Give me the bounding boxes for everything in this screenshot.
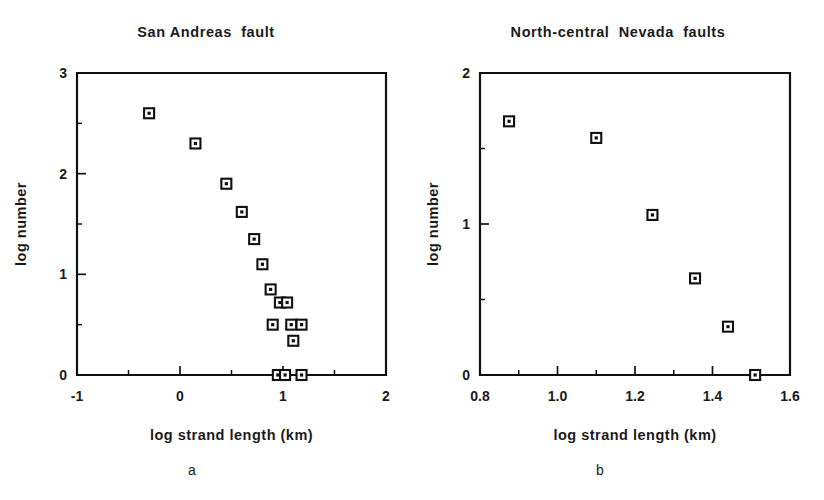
data-point-marker bbox=[286, 320, 296, 330]
x-axis-title: log strand length (km) bbox=[150, 427, 313, 443]
y-tick-label: 2 bbox=[462, 65, 470, 81]
data-point-marker bbox=[144, 108, 154, 118]
panel-a-san-andreas: San Andreas fault -10120123log strand le… bbox=[0, 0, 412, 500]
scatter-plot-nevada: 0.81.01.21.41.6012log strand length (km)… bbox=[412, 0, 824, 500]
data-point-marker bbox=[288, 336, 298, 346]
panel-letter-a: a bbox=[0, 462, 398, 478]
y-tick-label: 0 bbox=[59, 367, 67, 383]
y-tick-label: 0 bbox=[462, 367, 470, 383]
data-point-marker bbox=[297, 320, 307, 330]
y-tick-label: 1 bbox=[462, 216, 470, 232]
plot-frame bbox=[77, 73, 386, 375]
data-point-marker bbox=[297, 370, 307, 380]
panel-letter-b: b bbox=[394, 462, 806, 478]
data-point-marker bbox=[690, 273, 700, 283]
y-tick-label: 2 bbox=[59, 166, 67, 182]
data-point-marker bbox=[282, 298, 292, 308]
y-tick-label: 3 bbox=[59, 65, 67, 81]
x-tick-label: 1.2 bbox=[625, 388, 645, 404]
x-tick-label: 0 bbox=[176, 388, 184, 404]
x-tick-label: 2 bbox=[382, 388, 390, 404]
data-point-marker bbox=[190, 138, 200, 148]
data-point-marker bbox=[268, 320, 278, 330]
data-point-marker bbox=[591, 133, 601, 143]
x-tick-label: 0.8 bbox=[470, 388, 490, 404]
x-tick-label: 1.0 bbox=[548, 388, 568, 404]
y-axis-title: log number bbox=[13, 182, 29, 266]
data-point-marker bbox=[647, 210, 657, 220]
data-point-marker bbox=[750, 370, 760, 380]
y-axis-title: log number bbox=[425, 182, 441, 266]
x-tick-label: 1.4 bbox=[703, 388, 723, 404]
figure-container: San Andreas fault -10120123log strand le… bbox=[0, 0, 824, 500]
data-point-marker bbox=[280, 370, 290, 380]
x-axis-title: log strand length (km) bbox=[553, 427, 716, 443]
data-point-marker bbox=[266, 284, 276, 294]
data-point-marker bbox=[237, 207, 247, 217]
x-tick-label: -1 bbox=[71, 388, 84, 404]
scatter-plot-san-andreas: -10120123log strand length (km)log numbe… bbox=[0, 0, 412, 500]
panel-b-nevada: North-central Nevada faults 0.81.01.21.4… bbox=[412, 0, 824, 500]
data-point-marker bbox=[257, 259, 267, 269]
x-tick-label: 1.6 bbox=[780, 388, 800, 404]
data-point-marker bbox=[723, 322, 733, 332]
data-point-marker bbox=[221, 179, 231, 189]
data-point-marker bbox=[504, 116, 514, 126]
data-point-marker bbox=[249, 234, 259, 244]
x-tick-label: 1 bbox=[279, 388, 287, 404]
y-tick-label: 1 bbox=[59, 266, 67, 282]
plot-frame bbox=[480, 73, 790, 375]
